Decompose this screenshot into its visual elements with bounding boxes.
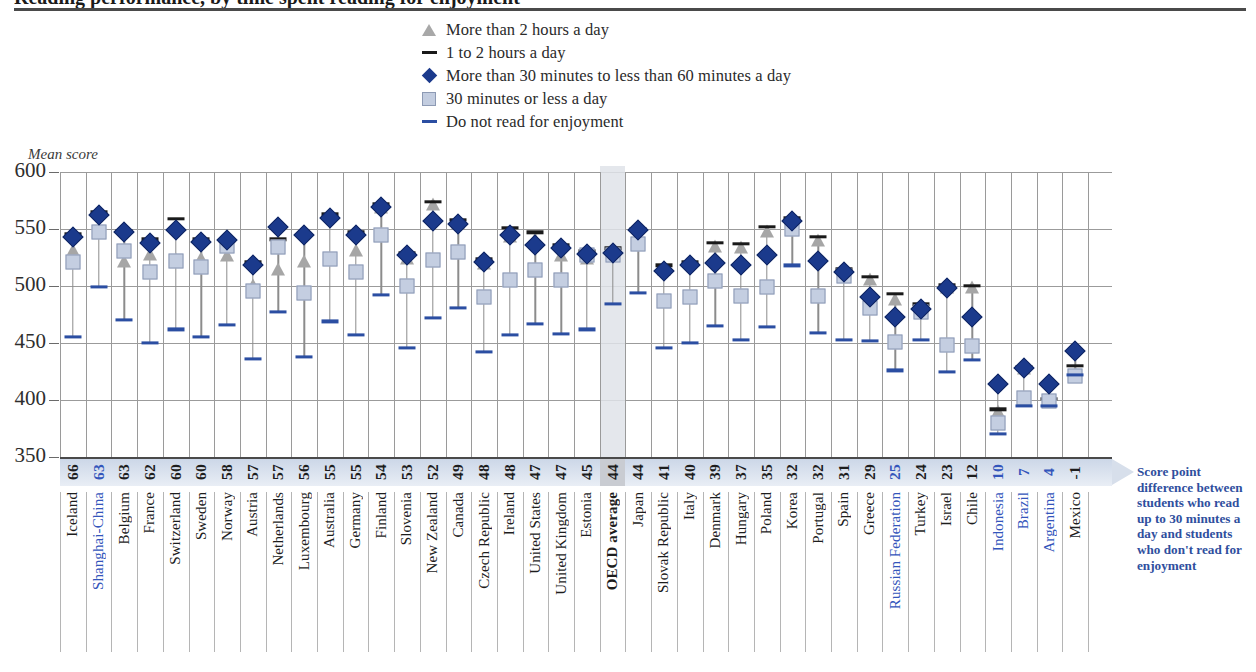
category-name-text: Turkey — [912, 492, 929, 535]
x-axis-category-label[interactable]: Brazil — [1011, 492, 1037, 652]
data-column[interactable] — [985, 172, 1011, 457]
data-point-diamond — [294, 224, 315, 245]
x-axis-category-label[interactable]: Netherlands — [266, 492, 292, 652]
x-axis-category-label[interactable]: Greece — [857, 492, 883, 652]
x-axis-category-label[interactable]: Norway — [214, 492, 240, 652]
data-column[interactable] — [497, 172, 523, 457]
data-column[interactable] — [1011, 172, 1037, 457]
data-column[interactable] — [471, 172, 497, 457]
x-axis-category-label[interactable]: Estonia — [574, 492, 600, 652]
x-axis-category-label[interactable]: Shanghai-China — [86, 492, 112, 652]
x-axis-category-label[interactable]: Switzerland — [163, 492, 189, 652]
x-axis-category-label[interactable]: Czech Republic — [471, 492, 497, 652]
data-column[interactable] — [574, 172, 600, 457]
x-axis-category-label[interactable]: Spain — [831, 492, 857, 652]
data-column[interactable] — [960, 172, 986, 457]
score-difference-text: 44 — [629, 464, 647, 480]
data-column[interactable] — [600, 172, 626, 457]
data-point-dash-blue — [476, 351, 493, 354]
x-axis-category-label[interactable]: Germany — [343, 492, 369, 652]
x-axis-category-label[interactable]: Chile — [960, 492, 986, 652]
data-column[interactable] — [86, 172, 112, 457]
data-column[interactable] — [446, 172, 472, 457]
data-column[interactable] — [266, 172, 292, 457]
data-column[interactable] — [651, 172, 677, 457]
category-name-text: Netherlands — [270, 492, 287, 566]
x-axis-category-label[interactable]: Italy — [677, 492, 703, 652]
x-axis-category-label[interactable]: Austria — [240, 492, 266, 652]
data-column[interactable] — [523, 172, 549, 457]
x-axis-category-label[interactable]: Argentina — [1037, 492, 1063, 652]
x-axis-category-label[interactable]: Finland — [368, 492, 394, 652]
x-axis-category-label[interactable]: Iceland — [60, 492, 86, 652]
data-column[interactable] — [240, 172, 266, 457]
x-axis-category-label[interactable]: Slovak Republic — [651, 492, 677, 652]
x-axis-category-label[interactable]: Australia — [317, 492, 343, 652]
x-axis-category-label[interactable]: United Kingdom — [548, 492, 574, 652]
score-difference-text: 39 — [706, 464, 724, 480]
data-column[interactable] — [394, 172, 420, 457]
x-axis-category-label[interactable]: Ireland — [497, 492, 523, 652]
data-column[interactable] — [137, 172, 163, 457]
data-column[interactable] — [317, 172, 343, 457]
data-column[interactable] — [677, 172, 703, 457]
data-column[interactable] — [548, 172, 574, 457]
data-column[interactable] — [291, 172, 317, 457]
x-axis-category-label[interactable]: Portugal — [805, 492, 831, 652]
data-point-square — [297, 285, 312, 300]
x-axis-category-label[interactable]: Mexico — [1062, 492, 1088, 652]
data-point-dash-blue — [964, 359, 981, 362]
x-axis-category-label[interactable]: Russian Federation — [882, 492, 908, 652]
x-axis-category-label[interactable]: Luxembourg — [291, 492, 317, 652]
data-column[interactable] — [163, 172, 189, 457]
x-axis-category-label[interactable]: Slovenia — [394, 492, 420, 652]
data-column[interactable] — [111, 172, 137, 457]
data-point-dash-blue — [270, 311, 287, 314]
x-axis-category-label[interactable]: France — [137, 492, 163, 652]
data-column[interactable] — [857, 172, 883, 457]
x-axis-category-label[interactable]: Indonesia — [985, 492, 1011, 652]
data-column[interactable] — [214, 172, 240, 457]
data-column[interactable] — [60, 172, 86, 457]
x-axis-category-label[interactable]: Canada — [446, 492, 472, 652]
data-column[interactable] — [780, 172, 806, 457]
x-axis-category-label[interactable]: New Zealand — [420, 492, 446, 652]
data-column[interactable] — [625, 172, 651, 457]
x-axis-category-label[interactable]: Korea — [780, 492, 806, 652]
x-axis-category-label[interactable]: Japan — [625, 492, 651, 652]
data-column[interactable] — [368, 172, 394, 457]
legend-item-label: Do not read for enjoyment — [446, 112, 624, 132]
x-axis-category-label[interactable]: Israel — [934, 492, 960, 652]
score-difference-value: -1 — [1062, 459, 1088, 486]
x-axis-category-label[interactable]: Hungary — [728, 492, 754, 652]
label-divider — [446, 492, 447, 652]
data-column[interactable] — [420, 172, 446, 457]
data-column[interactable] — [189, 172, 215, 457]
x-axis-category-label[interactable]: Poland — [754, 492, 780, 652]
score-difference-text: 7 — [1015, 468, 1033, 476]
legend-item-4: Do not read for enjoyment — [418, 110, 938, 133]
x-axis-category-label[interactable]: Sweden — [189, 492, 215, 652]
label-divider — [908, 492, 909, 652]
data-column[interactable] — [882, 172, 908, 457]
x-axis-category-label[interactable]: Belgium — [111, 492, 137, 652]
x-axis-category-label[interactable]: United States — [523, 492, 549, 652]
data-column[interactable] — [908, 172, 934, 457]
data-column[interactable] — [934, 172, 960, 457]
data-column[interactable] — [831, 172, 857, 457]
data-column[interactable] — [1062, 172, 1088, 457]
x-axis-category-label[interactable]: OECD average — [600, 492, 626, 652]
data-column[interactable] — [1037, 172, 1063, 457]
category-name-text: Hungary — [733, 492, 750, 545]
data-column[interactable] — [343, 172, 369, 457]
x-axis-category-label[interactable]: Turkey — [908, 492, 934, 652]
data-column[interactable] — [805, 172, 831, 457]
data-point-dash-dark — [964, 284, 981, 287]
data-column[interactable] — [703, 172, 729, 457]
data-point-diamond — [242, 255, 263, 276]
score-difference-value: 56 — [291, 459, 317, 486]
data-column[interactable] — [728, 172, 754, 457]
data-column[interactable] — [754, 172, 780, 457]
x-axis-category-label[interactable]: Denmark — [703, 492, 729, 652]
score-difference-value: 44 — [600, 459, 626, 486]
